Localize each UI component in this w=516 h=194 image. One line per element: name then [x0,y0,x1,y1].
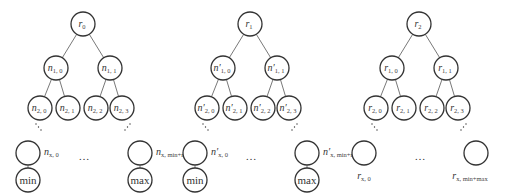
edge-root-l1-1 [89,34,103,58]
leaf-left-node [16,141,40,165]
edge-l1-l2-1 [59,79,64,96]
level2-node-0: n2, 0 [28,96,52,120]
level1-node-1: r1, 1 [434,56,458,80]
leaf-right-node [295,141,319,165]
edge-root-l1-0 [398,34,412,58]
root-node: r1 [238,12,262,36]
level2-node-0: n′2, 0 [195,96,219,120]
level1-node-0: n1, 0 [44,56,68,80]
edge-root-l1-1 [256,34,270,58]
tree-diagram: r0n1, 0n1, 1n2, 0n2, 1n2, 2n2, 3nx, 0nx,… [0,0,516,194]
edge-l1-l2-0 [380,79,387,97]
leaf-left-node-circle [16,141,40,165]
vertical-ellipsis-right [460,123,466,130]
vertical-ellipsis-left [35,123,41,130]
leaf-left-node [183,141,207,165]
edge-l1-l2-0 [44,79,51,97]
vertical-ellipsis-right [291,123,297,130]
edge-l1-l2-1 [395,79,400,96]
horizontal-ellipsis: … [79,150,90,162]
leaf-left-label: rx, 0 [357,170,371,182]
leaf-left-node-circle [183,141,207,165]
tree-1: r1n′1, 0n′1, 1n′2, 0n′2, 1n′2, 2n′2, 3n′… [183,12,362,192]
edge-root-l1-0 [229,34,243,58]
level2-node-2: r2, 2 [420,96,444,120]
level1-node-0: r1, 0 [380,56,404,80]
edge-l1-l2-3 [113,79,118,96]
vertical-ellipsis-left [371,123,377,130]
level2-node-1: n2, 1 [56,96,80,120]
edge-l1-l2-2 [267,79,273,96]
level2-node-2: n′2, 2 [251,96,275,120]
level1-node-1: n1, 1 [98,56,122,80]
min-node: min [183,168,207,192]
leaf-right-node-circle [464,141,488,165]
max-node: max [128,168,152,192]
vertical-ellipsis-right [124,123,130,130]
edge-l1-l2-2 [100,79,106,96]
leaf-right-label: rx, min+max [452,170,488,182]
level2-node-1: n′2, 1 [223,96,247,120]
max-label: max [298,174,317,186]
horizontal-ellipsis: … [415,150,426,162]
leaf-left-label: n′x, 0 [211,146,228,158]
min-label: min [19,174,37,186]
min-node: min [16,168,40,192]
level1-node-1: n′1, 1 [265,56,289,80]
max-node: max [295,168,319,192]
leaf-right-node [128,141,152,165]
edge-l1-l2-1 [226,79,231,96]
leaf-right-node-circle [128,141,152,165]
tree-2: r2r1, 0r1, 1r2, 0r2, 1r2, 2r2, 3rx, 0rx,… [352,12,488,182]
leaf-left-node [352,141,376,165]
edge-l1-l2-0 [211,79,218,97]
tree-0: r0n1, 0n1, 1n2, 0n2, 1n2, 2n2, 3nx, 0nx,… [16,12,193,192]
level1-node-0: n′1, 0 [211,56,235,80]
level2-node-3: n2, 3 [110,96,134,120]
level2-node-1: r2, 1 [392,96,416,120]
root-node: r0 [71,12,95,36]
edge-l1-l2-3 [280,79,285,96]
root-node: r2 [407,12,431,36]
level2-node-0: r2, 0 [364,96,388,120]
leaf-right-node [464,141,488,165]
level2-node-2: n2, 2 [84,96,108,120]
min-label: min [186,174,204,186]
edge-root-l1-0 [62,34,76,58]
edge-root-l1-1 [425,34,439,58]
leaf-right-node-circle [295,141,319,165]
vertical-ellipsis-left [202,123,208,130]
leaf-left-node-circle [352,141,376,165]
horizontal-ellipsis: … [246,150,257,162]
edge-l1-l2-3 [449,79,454,96]
edge-l1-l2-2 [436,79,442,96]
leaf-left-label: nx, 0 [44,146,59,158]
max-label: max [131,174,150,186]
level2-node-3: n′2, 3 [277,96,301,120]
level2-node-3: r2, 3 [446,96,470,120]
